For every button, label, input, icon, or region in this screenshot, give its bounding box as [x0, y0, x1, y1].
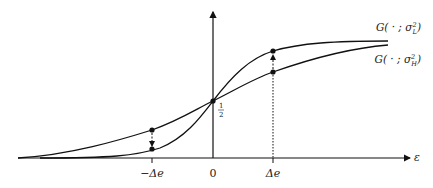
legend-sigma-L: G( · ; σ2L): [376, 21, 421, 36]
tick-label-zero: 0: [210, 167, 217, 180]
point-L-delta: [270, 48, 275, 53]
point-center: [210, 98, 215, 103]
tick-label-delta: Δe: [265, 167, 281, 180]
tick-label-neg-delta: −Δe: [140, 167, 164, 180]
x-axis-label: ε: [414, 151, 420, 164]
half-label-num: 1: [219, 102, 223, 110]
curve-sigma-H: [18, 45, 388, 158]
point-L-neg-delta: [149, 146, 154, 151]
cdf-diagram: 1 2 −Δe 0 Δe ε G( · ; σ2L) G( · ; σ2H): [0, 0, 433, 188]
point-H-neg-delta: [149, 127, 154, 132]
svg-text:G( · ; σ2H): G( · ; σ2H): [375, 53, 421, 68]
legend-sigma-H: G( · ; σ2H): [375, 53, 421, 68]
svg-text:G( · ; σ2L): G( · ; σ2L): [376, 21, 421, 36]
point-H-delta: [270, 69, 275, 74]
half-label-den: 2: [219, 111, 223, 119]
